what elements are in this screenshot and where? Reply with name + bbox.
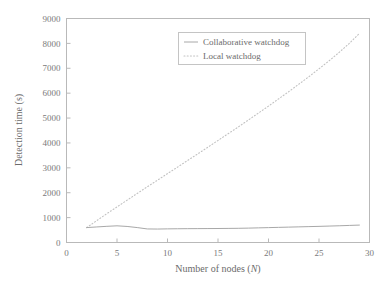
y-tick-label: 2000 [43, 188, 62, 198]
x-tick-label: 0 [64, 248, 69, 258]
legend-label-collaborative-watchdog: Collaborative watchdog [203, 37, 290, 47]
x-axis-ticks [117, 239, 319, 243]
x-axis-tick-labels: 051015202530 [64, 248, 374, 258]
y-tick-label: 0 [56, 238, 61, 248]
x-tick-label: 30 [365, 248, 375, 258]
y-tick-label: 1000 [43, 213, 62, 223]
y-axis-title: Detection time (s) [13, 94, 25, 166]
x-tick-label: 5 [115, 248, 120, 258]
y-tick-label: 4000 [43, 138, 62, 148]
x-tick-label: 10 [163, 248, 173, 258]
y-tick-label: 9000 [43, 14, 62, 24]
chart-figure: 0100020003000400050006000700080009000 05… [0, 0, 389, 290]
y-tick-label: 8000 [43, 39, 62, 49]
y-tick-label: 5000 [43, 113, 62, 123]
x-tick-label: 25 [315, 248, 325, 258]
x-tick-label: 20 [264, 248, 274, 258]
x-axis-title-variable: N [250, 263, 259, 274]
y-axis-ticks [67, 19, 71, 243]
series-collaborative-watchdog [87, 225, 360, 229]
x-tick-label: 15 [214, 248, 224, 258]
y-axis-tick-labels: 0100020003000400050006000700080009000 [43, 14, 62, 248]
detection-time-line-chart: 0100020003000400050006000700080009000 05… [0, 0, 389, 290]
y-tick-label: 7000 [43, 63, 62, 73]
chart-legend: Collaborative watchdog Local watchdog [179, 33, 306, 65]
y-tick-label: 6000 [43, 88, 62, 98]
x-axis-title: Number of nodes (N) [175, 263, 260, 275]
y-tick-label: 3000 [43, 163, 62, 173]
legend-label-local-watchdog: Local watchdog [203, 51, 261, 61]
